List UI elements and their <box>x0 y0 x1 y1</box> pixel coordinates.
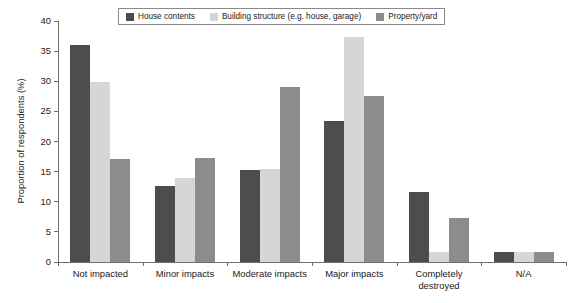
bar[interactable] <box>280 87 300 262</box>
x-axis-tick-mark <box>143 262 144 266</box>
y-axis-tick-label: 15 <box>36 167 54 177</box>
x-axis-tick-mark <box>58 262 59 266</box>
legend-label: House contents <box>138 12 195 21</box>
bar[interactable] <box>364 96 384 262</box>
x-axis-category-label: N/A <box>481 268 566 280</box>
y-axis-tick-label: 20 <box>36 137 54 147</box>
y-axis-tick-label: 5 <box>36 227 54 237</box>
y-axis-tick-label: 25 <box>36 106 54 116</box>
bar[interactable] <box>534 252 554 262</box>
legend-swatch-icon <box>376 13 384 21</box>
bar[interactable] <box>70 45 90 262</box>
x-axis-category-label: Moderate impacts <box>227 268 312 280</box>
x-axis-tick-mark <box>312 262 313 266</box>
bar[interactable] <box>175 178 195 262</box>
bar-group <box>397 21 482 262</box>
y-axis-tick-label: 30 <box>36 76 54 86</box>
chart-legend: House contentsBuilding structure (e.g. h… <box>118 8 445 25</box>
y-axis-tick-label: 40 <box>36 16 54 26</box>
bar[interactable] <box>449 218 469 262</box>
bar[interactable] <box>344 37 364 262</box>
bar[interactable] <box>110 159 130 262</box>
bar-group <box>143 21 228 262</box>
y-axis-tick: 30 <box>36 76 58 86</box>
bar[interactable] <box>494 252 514 262</box>
x-axis-tick-mark <box>397 262 398 266</box>
plot-area: 0510152025303540 <box>58 21 566 262</box>
x-axis-category-label: Not impacted <box>58 268 143 280</box>
bar[interactable] <box>90 82 110 262</box>
x-axis-category-label: Completely destroyed <box>397 268 482 292</box>
legend-entry[interactable]: Building structure (e.g. house, garage) <box>210 12 361 21</box>
y-axis-tick: 0 <box>36 257 58 267</box>
y-axis-tick: 35 <box>36 46 58 56</box>
y-axis-tick: 5 <box>36 227 58 237</box>
legend-swatch-icon <box>210 13 218 21</box>
legend-swatch-icon <box>126 13 134 21</box>
bar-chart: House contentsBuilding structure (e.g. h… <box>0 0 578 303</box>
bar-group <box>312 21 397 262</box>
x-axis-category-label: Major impacts <box>312 268 397 280</box>
bar[interactable] <box>514 252 534 262</box>
bar[interactable] <box>155 186 175 262</box>
x-axis-labels: Not impactedMinor impactsModerate impact… <box>58 268 566 302</box>
y-axis-title: Proportion of respondents (%) <box>14 20 28 262</box>
bar[interactable] <box>429 252 449 262</box>
y-axis-tick-label: 0 <box>36 257 54 267</box>
bar[interactable] <box>409 192 429 262</box>
legend-label: Property/yard <box>388 12 437 21</box>
x-axis-tick-mark <box>566 262 567 266</box>
y-axis-tick: 40 <box>36 16 58 26</box>
legend-label: Building structure (e.g. house, garage) <box>222 12 361 21</box>
bar[interactable] <box>195 158 215 262</box>
bar[interactable] <box>324 121 344 262</box>
y-axis-tick-label: 35 <box>36 46 54 56</box>
y-axis-tick: 10 <box>36 197 58 207</box>
legend-entry[interactable]: House contents <box>126 12 195 21</box>
y-axis-tick: 20 <box>36 137 58 147</box>
x-axis-tick-mark <box>481 262 482 266</box>
y-axis-tick: 15 <box>36 167 58 177</box>
y-axis-tick: 25 <box>36 106 58 116</box>
x-axis-category-label: Minor impacts <box>143 268 228 280</box>
bar-group <box>481 21 566 262</box>
bar[interactable] <box>240 170 260 262</box>
x-axis-tick-mark <box>227 262 228 266</box>
legend-entry[interactable]: Property/yard <box>376 12 437 21</box>
bar-group <box>227 21 312 262</box>
bar-group <box>58 21 143 262</box>
y-axis-tick-label: 10 <box>36 197 54 207</box>
bar[interactable] <box>260 169 280 262</box>
